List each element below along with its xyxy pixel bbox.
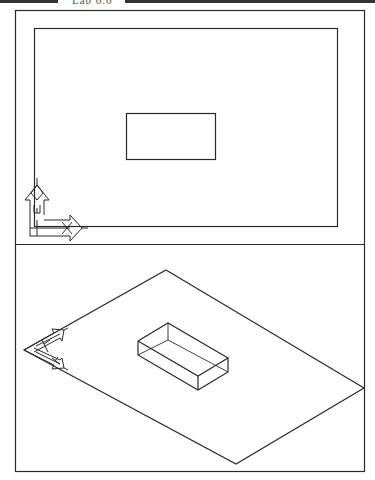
isometric-viewport[interactable] <box>24 270 364 464</box>
object-rectangle[interactable] <box>127 114 216 160</box>
plan-viewport[interactable] <box>25 29 338 242</box>
limits-rectangle <box>35 29 338 227</box>
ucs-icon-2d <box>25 178 88 241</box>
isometric-plane <box>24 270 364 464</box>
isometric-box[interactable] <box>138 323 228 390</box>
cad-drawing <box>0 0 375 480</box>
ucs-icon-isometric <box>24 328 68 370</box>
viewport-frame[interactable] <box>16 11 365 472</box>
